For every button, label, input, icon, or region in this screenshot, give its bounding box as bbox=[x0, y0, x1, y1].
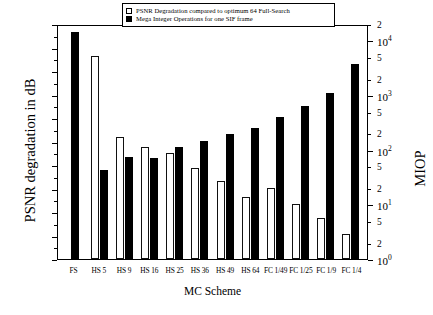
left-axis: PSNR degradation in dB 0.00.51.01.52.02.… bbox=[0, 0, 57, 315]
x-axis-tick-label: FC 1/49 bbox=[263, 261, 288, 281]
bar-group bbox=[187, 26, 212, 259]
bar-group bbox=[313, 26, 338, 259]
legend-label: Mega Integer Operations for one SIF fram… bbox=[136, 15, 253, 23]
bar-psnr bbox=[116, 137, 124, 259]
bar-miop bbox=[175, 147, 183, 259]
bar-group bbox=[212, 26, 237, 259]
right-axis-tick-label: 2 bbox=[377, 239, 382, 249]
bar-group bbox=[162, 26, 187, 259]
bar-psnr bbox=[217, 181, 225, 259]
x-axis-title: MC Scheme bbox=[57, 285, 368, 297]
legend-label: PSNR Degradation compared to optimum 64 … bbox=[136, 7, 290, 15]
legend-swatch-black bbox=[126, 16, 132, 22]
bar-miop bbox=[276, 117, 284, 259]
right-axis-tick-mark bbox=[368, 244, 371, 245]
right-axis-tick-mark bbox=[368, 113, 371, 114]
right-axis-tick-mark bbox=[368, 222, 371, 223]
bar-miop bbox=[226, 134, 234, 259]
bar-group bbox=[112, 26, 137, 259]
right-axis-tick-mark bbox=[368, 205, 373, 206]
x-axis-tick-label: HS 9 bbox=[112, 261, 137, 281]
right-axis-tick-label: 5 bbox=[377, 108, 382, 118]
right-axis-tick-label: 101 bbox=[377, 199, 392, 213]
bar-miop bbox=[351, 64, 359, 259]
legend-entry: Mega Integer Operations for one SIF fram… bbox=[126, 15, 330, 23]
bar-psnr bbox=[292, 204, 300, 259]
legend-swatch-white bbox=[126, 8, 132, 14]
right-axis-tick-mark bbox=[368, 80, 371, 81]
bar-group bbox=[263, 26, 288, 259]
bar-group bbox=[137, 26, 162, 259]
bar-miop bbox=[125, 157, 133, 259]
bar-psnr bbox=[141, 147, 149, 259]
right-axis-tick-label: 2 bbox=[377, 129, 382, 139]
right-axis-tick-label: 102 bbox=[377, 144, 392, 158]
x-axis-tick-label: HS 16 bbox=[137, 261, 162, 281]
right-axis-tick-mark bbox=[368, 151, 373, 152]
x-axis-tick-label: FC 1/4 bbox=[339, 261, 364, 281]
bar-psnr bbox=[166, 153, 174, 259]
bar-miop bbox=[200, 141, 208, 259]
x-axis-ticks: FSHS 5HS 9HS 16HS 25HS 36HS 49HS 64FC 1/… bbox=[57, 261, 368, 281]
x-axis-tick-label: HS 5 bbox=[86, 261, 111, 281]
bar-group bbox=[87, 26, 112, 259]
bar-miop bbox=[71, 32, 79, 259]
right-axis-tick-label: 5 bbox=[377, 53, 382, 63]
legend-entry: PSNR Degradation compared to optimum 64 … bbox=[126, 7, 330, 15]
x-axis-tick-label: HS 49 bbox=[213, 261, 238, 281]
bar-miop bbox=[100, 170, 108, 259]
bar-miop bbox=[301, 106, 309, 259]
right-axis-tick-mark bbox=[368, 167, 371, 168]
right-axis-tick-label: 2 bbox=[377, 20, 382, 30]
right-axis-tick-mark bbox=[368, 189, 371, 190]
x-axis-tick-label: HS 25 bbox=[162, 261, 187, 281]
x-axis-tick-label: FC 1/9 bbox=[314, 261, 339, 281]
bar-psnr bbox=[267, 188, 275, 259]
x-axis-tick-label: HS 36 bbox=[187, 261, 212, 281]
chart-legend: PSNR Degradation compared to optimum 64 … bbox=[122, 3, 335, 27]
x-axis-tick-label: FC 1/25 bbox=[288, 261, 313, 281]
bar-miop bbox=[326, 93, 334, 259]
bar-miop bbox=[150, 158, 158, 259]
right-axis-tick-label: 5 bbox=[377, 162, 382, 172]
bar-psnr bbox=[191, 168, 199, 259]
bar-miop bbox=[251, 128, 259, 259]
right-axis-tick-label: 2 bbox=[377, 184, 382, 194]
right-axis: MIOP 100251012510225103251042 bbox=[368, 0, 433, 315]
right-axis-tick-label: 103 bbox=[377, 89, 392, 103]
bar-psnr bbox=[342, 234, 350, 259]
right-axis-tick-label: 100 bbox=[377, 253, 392, 267]
right-axis-tick-mark bbox=[368, 41, 373, 42]
x-axis-tick-label: HS 64 bbox=[238, 261, 263, 281]
bar-group bbox=[288, 26, 313, 259]
bar-psnr bbox=[91, 56, 99, 260]
right-axis-tick-mark bbox=[368, 134, 371, 135]
left-axis-title: PSNR degradation in dB bbox=[22, 51, 39, 251]
bar-group bbox=[338, 26, 363, 259]
right-axis-tick-mark bbox=[368, 25, 371, 26]
bar-psnr bbox=[317, 218, 325, 259]
right-axis-tick-label: 2 bbox=[377, 75, 382, 85]
right-axis-tick-label: 5 bbox=[377, 217, 382, 227]
right-axis-title: MIOP bbox=[412, 109, 429, 229]
right-axis-tick-mark bbox=[368, 58, 371, 59]
right-axis-tick-label: 104 bbox=[377, 35, 392, 49]
right-axis-tick-mark bbox=[368, 260, 373, 261]
bar-group bbox=[238, 26, 263, 259]
bar-psnr bbox=[242, 197, 250, 260]
bar-group bbox=[62, 26, 87, 259]
plot-area bbox=[57, 25, 368, 260]
bar-groups bbox=[58, 26, 367, 259]
right-axis-tick-mark bbox=[368, 96, 373, 97]
x-axis-tick-label: FS bbox=[61, 261, 86, 281]
chart-figure: PSNR degradation in dB 0.00.51.01.52.02.… bbox=[0, 0, 433, 315]
